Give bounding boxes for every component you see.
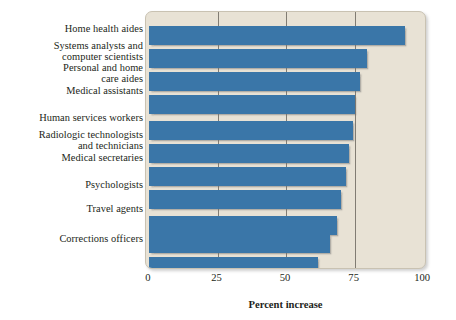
category-label: Medical assistants: [0, 85, 143, 96]
x-tick-label: 25: [211, 272, 222, 283]
bar-travel-agents: [149, 234, 330, 253]
plot-panel: [145, 11, 426, 269]
x-axis-title: Percent increase: [145, 299, 426, 310]
bar-systems-analysts: [149, 49, 367, 68]
bar-human-services-workers: [149, 121, 353, 140]
plot-area: [146, 12, 425, 268]
x-axis-tick-labels: 0255075100: [145, 269, 426, 289]
bar-bar-11: [149, 257, 318, 268]
bar-bar-8: [149, 190, 341, 209]
category-label: Personal and home care aides: [0, 62, 143, 85]
category-label: Corrections officers: [0, 233, 143, 244]
bar-radiologic-technologists: [149, 144, 349, 163]
x-tick-label: 100: [414, 272, 430, 283]
bar-chart: Home health aidesSystems analysts and co…: [0, 0, 456, 320]
category-label: Home health aides: [0, 23, 143, 34]
x-tick-label: 0: [145, 272, 150, 283]
category-label: Travel agents: [0, 203, 143, 214]
bar-psychologists: [149, 216, 337, 235]
bar-personal-care-aides: [149, 72, 360, 91]
bar-medical-secretaries: [149, 167, 346, 186]
category-label: Radiologic technologists and technicians: [0, 129, 143, 152]
x-tick-label: 75: [348, 272, 359, 283]
category-label: Psychologists: [0, 179, 143, 190]
bar-medical-assistants: [149, 95, 355, 114]
bar-home-health-aides: [149, 26, 405, 45]
x-tick-label: 50: [280, 272, 291, 283]
category-label-column: Home health aidesSystems analysts and co…: [0, 11, 143, 269]
category-label: Medical secretaries: [0, 152, 143, 163]
category-label: Human services workers: [0, 112, 143, 123]
category-label: Systems analysts and computer scientists: [0, 40, 143, 63]
